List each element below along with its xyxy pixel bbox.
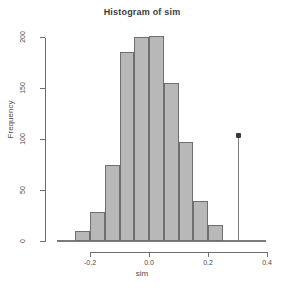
y-tick [40,139,45,140]
histogram-bar [179,142,194,241]
observed-value-spike-line [238,136,239,241]
y-tick-label: 100 [12,134,38,144]
y-tick [40,190,45,191]
y-tick-label: 0 [12,236,38,246]
y-tick [40,88,45,89]
x-tick-label: 0.4 [254,259,280,266]
observed-value-spike-marker [236,133,241,138]
histogram-bar [134,37,149,241]
y-axis-line [45,38,46,242]
histogram-plot: Histogram of sim Frequency sim 050100150… [0,0,284,294]
y-tick [40,37,45,38]
y-tick [40,241,45,242]
x-tick [208,252,209,257]
x-tick-label: 0.2 [195,259,221,266]
histogram-bar [208,225,223,241]
histogram-bar [90,212,105,241]
x-tick [149,252,150,257]
histogram-bar [75,231,90,241]
x-tick [267,252,268,257]
x-axis-line [90,252,267,253]
histogram-bar [105,165,120,242]
histogram-bar [164,83,179,241]
y-tick-label: 150 [12,83,38,93]
histogram-bar [149,36,164,241]
histogram-bar [120,52,135,241]
histogram-bar [193,201,208,241]
y-tick-label: 200 [12,32,38,42]
y-tick-label: 50 [12,185,38,195]
x-tick [90,252,91,257]
page-title: Histogram of sim [0,7,284,17]
x-tick-label: -0.2 [77,259,103,266]
x-tick-label: 0.0 [136,259,162,266]
x-axis-label: sim [0,269,284,278]
